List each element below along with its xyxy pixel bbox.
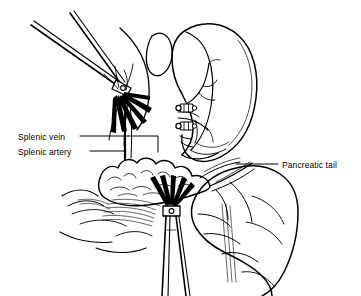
label-splenic-artery: Splenic artery xyxy=(18,147,71,157)
label-splenic-vein: Splenic vein xyxy=(18,132,65,142)
upper-forceps[interactable] xyxy=(31,11,152,146)
surgical-clips xyxy=(176,104,197,147)
forceps-jaws xyxy=(150,175,195,206)
label-leader-lines xyxy=(80,136,278,164)
spleen-shape xyxy=(172,24,257,162)
surgical-clip xyxy=(176,122,197,130)
surgical-illustration: Splenic vein Splenic artery Pancreatic t… xyxy=(0,0,361,296)
retroperitoneal-tissue xyxy=(60,190,160,253)
surgical-clip xyxy=(176,104,197,112)
shading-hatching xyxy=(78,199,160,226)
accessory-structure xyxy=(146,33,172,76)
label-pancreatic-tail: Pancreatic tail xyxy=(282,160,337,170)
stomach-colon-shape xyxy=(192,158,299,296)
leader-splenic-vein xyxy=(80,136,158,152)
